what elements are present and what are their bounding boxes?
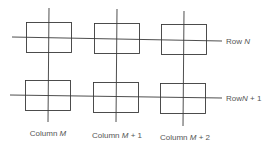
column-label-m-plus-1: Column M + 1 — [92, 131, 143, 140]
row-label-n-plus-1: RowN + 1 — [226, 94, 262, 103]
row-label-n: Row N — [226, 37, 250, 46]
cell-grid-diagram: Row N RowN + 1 Column M Column M + 1 Col… — [0, 0, 273, 150]
column-line-m — [48, 8, 49, 122]
column-line-m-plus-1 — [116, 9, 117, 122]
column-line-m-plus-2 — [183, 11, 184, 126]
column-label-m: Column M — [30, 129, 67, 138]
column-label-m-plus-2: Column M + 2 — [160, 133, 211, 142]
